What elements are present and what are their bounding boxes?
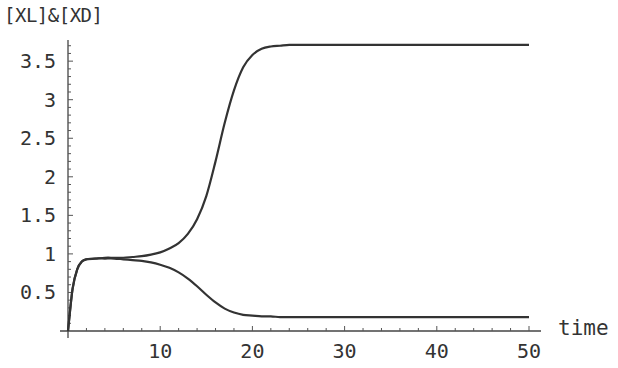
y-tick-label: 2 — [44, 165, 56, 189]
series-line-xl — [68, 45, 529, 331]
series-line-xd — [68, 258, 529, 331]
y-tick-label: 1 — [44, 242, 56, 266]
line-chart: 10203040500.511.522.533.5 — [0, 0, 618, 368]
y-tick-label: 2.5 — [20, 126, 56, 150]
y-tick-label: 0.5 — [20, 280, 56, 304]
x-tick-label: 50 — [517, 339, 541, 363]
y-tick-label: 3 — [44, 88, 56, 112]
x-tick-label: 20 — [240, 339, 264, 363]
y-tick-label: 1.5 — [20, 203, 56, 227]
x-tick-label: 30 — [333, 339, 357, 363]
y-tick-label: 3.5 — [20, 49, 56, 73]
x-tick-label: 10 — [148, 339, 172, 363]
x-tick-label: 40 — [425, 339, 449, 363]
